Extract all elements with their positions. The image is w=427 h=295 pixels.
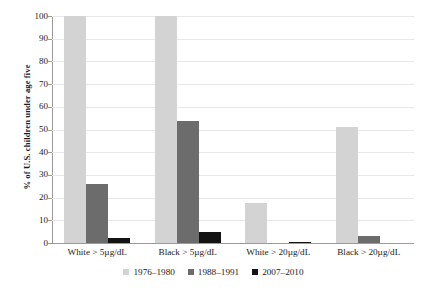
legend-swatch-icon xyxy=(123,269,129,275)
y-axis-tick-label: 30 xyxy=(2,170,48,179)
x-axis-category-label: Black > 20µg/dL xyxy=(308,247,427,257)
legend-swatch-icon xyxy=(188,269,194,275)
y-axis-tick-label: 70 xyxy=(2,80,48,89)
legend-label: 1988–1991 xyxy=(198,267,239,277)
bar-chart: % of U.S. children under age five 010203… xyxy=(0,0,427,295)
bar xyxy=(177,121,199,243)
legend-label: 2007–2010 xyxy=(262,267,303,277)
bar xyxy=(64,16,86,243)
y-axis-tick-label: 10 xyxy=(2,216,48,225)
legend-label: 1976–1980 xyxy=(133,267,174,277)
bar-group xyxy=(155,16,221,243)
y-axis-tick-label: 20 xyxy=(2,193,48,202)
y-axis-tick-label: 100 xyxy=(2,12,48,21)
bar xyxy=(108,238,130,243)
bar-group xyxy=(245,16,311,243)
y-axis-tick-label: 50 xyxy=(2,125,48,134)
plot-area xyxy=(52,16,414,243)
y-axis-tick-labels: 0102030405060708090100 xyxy=(0,16,48,243)
legend-item[interactable]: 2007–2010 xyxy=(252,267,303,277)
legend-swatch-icon xyxy=(252,269,258,275)
bar xyxy=(336,127,358,243)
y-axis-tick-label: 40 xyxy=(2,148,48,157)
y-axis-tick-label: 80 xyxy=(2,57,48,66)
legend-item[interactable]: 1988–1991 xyxy=(188,267,239,277)
y-axis-tick-label: 60 xyxy=(2,102,48,111)
bar xyxy=(199,232,221,243)
bar-group xyxy=(336,16,402,243)
bar xyxy=(289,242,311,243)
legend-item[interactable]: 1976–1980 xyxy=(123,267,174,277)
legend: 1976–19801988–19912007–2010 xyxy=(0,267,427,277)
bar xyxy=(358,236,380,243)
bar-group xyxy=(64,16,130,243)
bar xyxy=(155,16,177,243)
y-axis-tick-label: 90 xyxy=(2,34,48,43)
bar xyxy=(86,184,108,243)
bar xyxy=(245,203,267,243)
gridline xyxy=(52,243,414,244)
